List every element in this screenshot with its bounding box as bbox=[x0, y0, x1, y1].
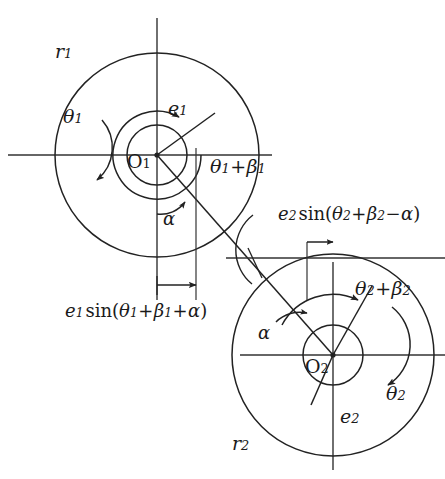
rotor2-angle-theta-sub: 2 bbox=[366, 283, 374, 298]
rotor2-theta-label: θ2 bbox=[386, 382, 406, 404]
formula-left-e-sub: 1 bbox=[76, 306, 84, 320]
rotor1-center-label: O1 bbox=[127, 150, 151, 172]
formula-left-close: ) bbox=[200, 300, 207, 321]
formula-right: e2sin(θ2+β2−α) bbox=[278, 203, 420, 224]
formula-right-e-sub: 2 bbox=[289, 209, 297, 223]
rotor2-theta-plus-beta-arc bbox=[282, 294, 358, 325]
formula-right-alpha: α bbox=[401, 203, 413, 224]
rotor2-angle-operator: + bbox=[375, 277, 392, 299]
rotor1-eccentricity-label: e1 bbox=[168, 97, 187, 119]
formula-right-close: ) bbox=[413, 203, 420, 224]
rotor2-angle-sum-label: θ2+β2 bbox=[355, 277, 411, 299]
formula-left-e: e bbox=[65, 300, 76, 321]
crossing-tick bbox=[248, 248, 262, 278]
formula-right-beta-sub: 2 bbox=[377, 209, 385, 223]
formula-left-beta-sub: 1 bbox=[164, 306, 172, 320]
rotor1-theta-rotation-arc bbox=[97, 120, 112, 180]
rotor1-angle-theta: θ bbox=[210, 155, 221, 177]
diagram-vector-layer bbox=[0, 0, 445, 479]
rotor2-e-subscript: 2 bbox=[351, 411, 359, 426]
rotor2-angle-theta: θ bbox=[355, 277, 366, 299]
rotor2-center-symbol: O bbox=[305, 355, 321, 377]
rotor2-angle-beta-sub: 2 bbox=[403, 283, 411, 298]
rotor2-theta-subscript: 2 bbox=[397, 388, 405, 403]
rotor1-center-subscript: 1 bbox=[143, 156, 151, 171]
formula-left: e1sin(θ1+β1+α) bbox=[65, 300, 207, 321]
rotor2-center-label: O2 bbox=[305, 355, 329, 377]
rotor2-angle-beta: β bbox=[392, 277, 403, 299]
rotor2-radius-symbol: r bbox=[232, 432, 241, 454]
alpha-symbol-lower: α bbox=[258, 322, 270, 343]
formula-right-op1: + bbox=[351, 203, 367, 224]
rotor1-angle-theta-sub: 1 bbox=[221, 161, 229, 176]
rotor1-angle-beta: β bbox=[247, 155, 258, 177]
alpha-label-upper: α bbox=[163, 208, 175, 229]
rotor2-eccentricity-label: e2 bbox=[340, 405, 359, 427]
alpha-label-lower: α bbox=[258, 322, 270, 343]
rod-angle-arc bbox=[236, 215, 253, 284]
rotor1-e-symbol: e bbox=[168, 97, 179, 119]
formula-right-fn: sin bbox=[298, 203, 325, 224]
rotor1-radius-subscript: 1 bbox=[64, 46, 72, 61]
formula-left-theta: θ bbox=[119, 300, 130, 321]
rotor2-radius-label: r2 bbox=[232, 432, 249, 454]
formula-left-beta: β bbox=[154, 300, 164, 321]
rotor1-theta-symbol: θ bbox=[63, 105, 74, 127]
diagram-canvas: r1 θ1 e1 O1 θ1+β1 α e1sin(θ1+β1+α) e2sin… bbox=[0, 0, 445, 479]
rotor1-angle-sum-label: θ1+β1 bbox=[210, 155, 266, 177]
rotor1-e-subscript: 1 bbox=[179, 103, 187, 118]
formula-left-fn: sin bbox=[85, 300, 112, 321]
formula-right-e: e bbox=[278, 203, 289, 224]
rotor1-radius-symbol: r bbox=[55, 40, 64, 62]
formula-right-theta: θ bbox=[332, 203, 343, 224]
formula-left-theta-sub: 1 bbox=[130, 306, 138, 320]
formula-right-beta: β bbox=[367, 203, 377, 224]
rotor2-e-symbol: e bbox=[340, 405, 351, 427]
rotor2-center-subscript: 2 bbox=[321, 361, 329, 376]
rotor1-radius-label: r1 bbox=[55, 40, 72, 62]
rotor2-theta-rotation-arc bbox=[388, 307, 410, 385]
formula-left-alpha: α bbox=[188, 300, 200, 321]
rotor1-angle-beta-sub: 1 bbox=[258, 161, 266, 176]
formula-right-theta-sub: 2 bbox=[343, 209, 351, 223]
formula-left-op1: + bbox=[138, 300, 154, 321]
rotor1-theta-subscript: 1 bbox=[74, 111, 82, 126]
rotor1-theta-label: θ1 bbox=[63, 105, 83, 127]
rotor1-angle-operator: + bbox=[230, 155, 247, 177]
rotor1-center-symbol: O bbox=[127, 150, 143, 172]
formula-left-op2: + bbox=[172, 300, 188, 321]
formula-right-op2: − bbox=[385, 203, 401, 224]
rotor2-radius-subscript: 2 bbox=[241, 438, 249, 453]
alpha-symbol-upper: α bbox=[163, 208, 175, 229]
rotor2-theta-symbol: θ bbox=[386, 382, 397, 404]
